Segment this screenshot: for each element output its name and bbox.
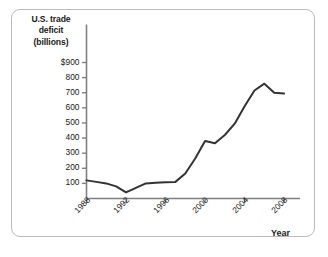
y-tick-label: 600 bbox=[44, 102, 80, 112]
chart-figure: U.S. trade deficit (billions) 1002003004… bbox=[0, 0, 328, 257]
y-tick-label: 700 bbox=[44, 87, 80, 97]
y-tick-label: 100 bbox=[44, 177, 80, 187]
chart-plot bbox=[0, 0, 328, 257]
y-tick-label: $900 bbox=[44, 57, 80, 67]
y-tick-label: 800 bbox=[44, 72, 80, 82]
y-tick-label: 500 bbox=[44, 117, 80, 127]
data-line-us-trade-deficit bbox=[87, 84, 285, 193]
y-tick-label: 300 bbox=[44, 147, 80, 157]
y-tick-label: 400 bbox=[44, 132, 80, 142]
y-tick-label: 200 bbox=[44, 162, 80, 172]
x-axis-title: Year bbox=[271, 228, 290, 238]
